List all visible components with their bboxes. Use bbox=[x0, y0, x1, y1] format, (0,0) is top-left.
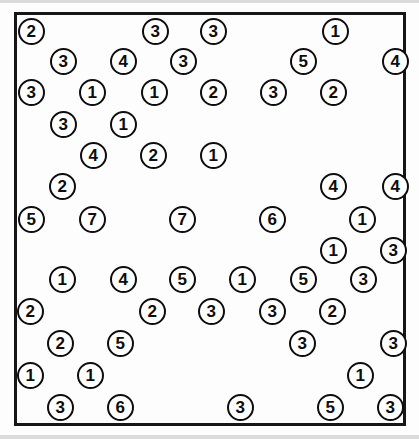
circled-number-7[interactable]: 7 bbox=[79, 206, 106, 233]
circled-number-3[interactable]: 3 bbox=[380, 330, 407, 357]
circled-number-2[interactable]: 2 bbox=[47, 330, 74, 357]
circled-number-4[interactable]: 4 bbox=[382, 48, 409, 75]
circled-number-5[interactable]: 5 bbox=[107, 330, 134, 357]
circled-number-1[interactable]: 1 bbox=[77, 362, 104, 389]
circled-number-1[interactable]: 1 bbox=[229, 266, 256, 293]
circled-number-3[interactable]: 3 bbox=[198, 298, 225, 325]
circled-number-3[interactable]: 3 bbox=[18, 79, 45, 106]
circled-number-2[interactable]: 2 bbox=[140, 142, 167, 169]
circled-number-4[interactable]: 4 bbox=[320, 173, 347, 200]
circled-number-3[interactable]: 3 bbox=[289, 330, 316, 357]
circled-number-3[interactable]: 3 bbox=[50, 111, 77, 138]
circled-number-2[interactable]: 2 bbox=[18, 18, 45, 45]
circled-number-4[interactable]: 4 bbox=[80, 142, 107, 169]
circled-number-5[interactable]: 5 bbox=[18, 206, 45, 233]
circled-number-5[interactable]: 5 bbox=[290, 48, 317, 75]
circled-number-1[interactable]: 1 bbox=[200, 142, 227, 169]
circled-number-2[interactable]: 2 bbox=[320, 79, 347, 106]
circled-number-3[interactable]: 3 bbox=[142, 18, 169, 45]
circled-number-2[interactable]: 2 bbox=[139, 298, 166, 325]
circled-number-1[interactable]: 1 bbox=[17, 362, 44, 389]
circled-number-1[interactable]: 1 bbox=[49, 266, 76, 293]
circled-number-3[interactable]: 3 bbox=[377, 394, 404, 421]
circled-number-3[interactable]: 3 bbox=[259, 298, 286, 325]
circled-number-3[interactable]: 3 bbox=[200, 18, 227, 45]
circled-number-3[interactable]: 3 bbox=[380, 237, 407, 264]
scan-edge-top bbox=[0, 0, 419, 3]
circled-number-1[interactable]: 1 bbox=[141, 79, 168, 106]
circled-number-1[interactable]: 1 bbox=[320, 237, 347, 264]
circled-number-4[interactable]: 4 bbox=[110, 48, 137, 75]
circled-number-5[interactable]: 5 bbox=[290, 266, 317, 293]
circled-number-6[interactable]: 6 bbox=[107, 394, 134, 421]
scan-edge-bottom bbox=[0, 435, 419, 439]
circled-number-1[interactable]: 1 bbox=[110, 111, 137, 138]
circled-number-2[interactable]: 2 bbox=[319, 298, 346, 325]
circled-number-2[interactable]: 2 bbox=[17, 298, 44, 325]
circled-number-5[interactable]: 5 bbox=[317, 394, 344, 421]
worksheet-canvas: 2331343543112323142124457761131451532233… bbox=[0, 0, 419, 439]
circled-number-2[interactable]: 2 bbox=[200, 79, 227, 106]
circled-number-3[interactable]: 3 bbox=[47, 394, 74, 421]
circled-number-6[interactable]: 6 bbox=[259, 206, 286, 233]
circled-number-5[interactable]: 5 bbox=[169, 266, 196, 293]
circled-number-3[interactable]: 3 bbox=[227, 394, 254, 421]
circled-number-3[interactable]: 3 bbox=[170, 48, 197, 75]
circled-number-1[interactable]: 1 bbox=[347, 362, 374, 389]
circled-number-2[interactable]: 2 bbox=[49, 173, 76, 200]
circled-number-7[interactable]: 7 bbox=[169, 206, 196, 233]
circled-number-3[interactable]: 3 bbox=[350, 266, 377, 293]
circled-number-1[interactable]: 1 bbox=[79, 79, 106, 106]
circled-number-3[interactable]: 3 bbox=[50, 48, 77, 75]
circled-number-1[interactable]: 1 bbox=[349, 206, 376, 233]
circled-number-1[interactable]: 1 bbox=[322, 18, 349, 45]
circled-number-4[interactable]: 4 bbox=[110, 266, 137, 293]
worksheet-border-frame bbox=[14, 12, 406, 426]
circled-number-4[interactable]: 4 bbox=[382, 173, 409, 200]
circled-number-3[interactable]: 3 bbox=[260, 79, 287, 106]
